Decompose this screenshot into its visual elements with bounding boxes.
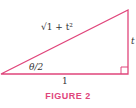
angle-label: θ/2 [29, 62, 43, 72]
figure-caption: FIGURE 2 [0, 91, 136, 101]
hypotenuse-label: √1 + t² [41, 22, 73, 32]
adjacent-side-label: 1 [62, 76, 68, 86]
triangle [1, 10, 128, 74]
right-angle-marker [121, 67, 128, 74]
opposite-side-label: t [131, 36, 135, 46]
